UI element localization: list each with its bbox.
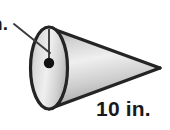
- cone-figure: n. 10 in.: [0, 0, 170, 130]
- center-point-dot: [44, 58, 54, 68]
- radius-measure-label: n.: [0, 14, 8, 33]
- slant-measure-label: 10 in.: [96, 98, 151, 119]
